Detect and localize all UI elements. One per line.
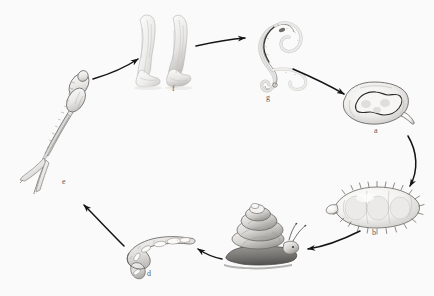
stage-label-a: a (374, 127, 378, 135)
stage-label-g: g (266, 94, 270, 102)
life-cycle-figure: a b c d e f g (0, 0, 434, 296)
stage-label-c: c (261, 259, 265, 267)
life-cycle-illustration (0, 0, 434, 296)
stage-label-d: d (147, 270, 151, 278)
figure-background (0, 0, 434, 296)
stage-label-f: f (172, 85, 175, 93)
stage-label-e: e (62, 178, 66, 186)
stage-label-b: b (372, 229, 376, 237)
